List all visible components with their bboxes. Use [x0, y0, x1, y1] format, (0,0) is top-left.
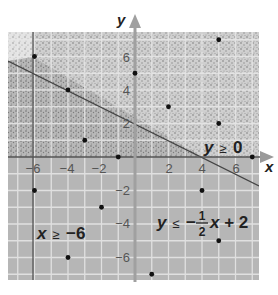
data-point — [216, 121, 221, 126]
x-tick-label: −2 — [92, 161, 107, 176]
x-tick-label: −6 — [26, 161, 41, 176]
y-tick-label: 6 — [123, 50, 130, 65]
svg-text:x ≥ −6: x ≥ −6 — [36, 224, 85, 243]
data-point — [116, 155, 121, 160]
x-tick-label: 6 — [232, 161, 239, 176]
data-point — [216, 238, 221, 243]
data-point — [250, 155, 255, 160]
label-x-ge-neg6: x ≥ −6 — [36, 224, 85, 243]
ineq-var: y — [203, 138, 215, 157]
ineq-rhs: −6 — [66, 224, 85, 243]
svg-text:y ≤ −: y ≤ − — [156, 213, 196, 232]
ineq-var: x — [36, 224, 48, 243]
y-tick-label: −4 — [115, 216, 130, 231]
y-tick-label: 4 — [123, 83, 130, 98]
y-axis-label: y — [116, 11, 126, 28]
fraction-denominator: 2 — [199, 225, 206, 239]
x-axis-label: x — [264, 158, 274, 175]
ineq-var: y — [156, 213, 168, 232]
data-point — [82, 138, 87, 143]
data-point — [133, 71, 138, 76]
data-point — [32, 54, 37, 59]
x-tick-label: −4 — [60, 161, 75, 176]
ineq-rhs-prefix: − — [186, 213, 196, 232]
ineq-rhs: 0 — [233, 138, 242, 157]
data-point — [66, 255, 71, 260]
ineq-op: ≥ — [52, 227, 59, 242]
y-axis-arrow-icon — [129, 14, 141, 28]
y-tick-label: −6 — [115, 250, 130, 265]
data-point — [149, 272, 154, 277]
inequality-graph: y x −6 −4 −2 2 4 6 6 4 2 −2 −4 −6 y ≥ 0 … — [0, 0, 278, 295]
ineq-op: ≥ — [219, 141, 226, 156]
data-point — [166, 104, 171, 109]
data-point — [216, 37, 221, 42]
data-point — [66, 88, 71, 93]
x-tick-label: 4 — [198, 161, 205, 176]
svg-text:y ≥ 0: y ≥ 0 — [203, 138, 243, 157]
x-tick-label: 2 — [165, 161, 172, 176]
y-tick-label: −2 — [115, 183, 130, 198]
fraction-numerator: 1 — [199, 209, 206, 223]
ineq-rhs-suffix: x + 2 — [209, 213, 248, 232]
data-point — [200, 188, 205, 193]
label-y-ge-0: y ≥ 0 — [203, 138, 243, 157]
graph-canvas: y x −6 −4 −2 2 4 6 6 4 2 −2 −4 −6 y ≥ 0 … — [0, 0, 278, 295]
y-tick-label: 2 — [123, 116, 130, 131]
ineq-op: ≤ — [172, 216, 179, 231]
data-point — [99, 205, 104, 210]
data-point — [32, 188, 37, 193]
